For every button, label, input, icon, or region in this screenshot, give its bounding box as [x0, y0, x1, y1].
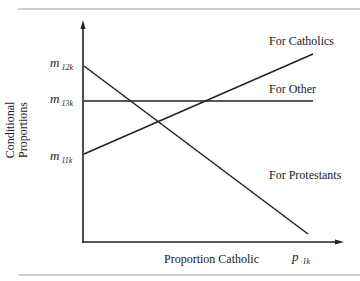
x-axis-end-label: p·1k	[292, 249, 310, 265]
tick-main: m	[50, 91, 59, 106]
y-axis-label: Conditional Proportions	[4, 102, 30, 159]
tick-main: m	[50, 148, 59, 163]
x-axis-arrow-icon	[335, 240, 344, 245]
x-end-sub: ·1k	[301, 257, 311, 266]
tick-sub: 13k	[61, 99, 73, 108]
tick-main: m	[50, 55, 59, 70]
tick-m11k: m11k	[50, 148, 72, 164]
x-end-main: p	[292, 249, 299, 264]
tick-sub: 12k	[61, 63, 73, 72]
tick-sub: 11k	[61, 156, 72, 165]
tick-m13k: m13k	[50, 91, 73, 107]
y-axis-arrow-icon	[81, 20, 86, 29]
label-other: For Other	[269, 82, 316, 97]
y-axis-label-line2: Proportions	[17, 102, 30, 159]
line-catholics	[84, 54, 313, 154]
x-axis-label: Proportion Catholic	[164, 252, 259, 267]
label-catholics: For Catholics	[269, 34, 334, 49]
label-protestants: For Protestants	[269, 168, 341, 183]
tick-m12k: m12k	[50, 55, 73, 71]
